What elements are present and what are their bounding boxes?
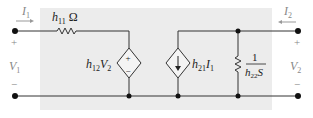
terminal-1-plus xyxy=(12,28,18,34)
resistor-h22-numerator: 1 xyxy=(252,51,258,63)
junction-node xyxy=(236,94,241,99)
junction-node xyxy=(176,94,181,99)
voltage-v2-label: V2 xyxy=(290,59,301,75)
source-plus: + xyxy=(126,53,131,63)
current-i2-label: I2 xyxy=(283,4,292,20)
port1-plus: + xyxy=(11,36,17,48)
port1-minus: − xyxy=(11,78,17,90)
voltage-v1-label: V1 xyxy=(9,59,20,75)
port2-plus: + xyxy=(294,36,300,48)
source-minus: − xyxy=(126,66,131,76)
circuit-diagram: + − I1 + V1 − h11 Ω h12V2 h21I1 1 h22S I… xyxy=(0,0,313,118)
current-i1-label: I1 xyxy=(21,4,30,20)
junction-node xyxy=(236,29,241,34)
terminal-2-plus xyxy=(295,28,301,34)
arrow-head xyxy=(30,19,34,23)
terminal-1-minus xyxy=(12,93,18,99)
resistor-h11-label: h11 Ω xyxy=(52,10,78,26)
arrow-head xyxy=(278,20,282,24)
junction-node xyxy=(127,94,132,99)
terminal-2-minus xyxy=(295,93,301,99)
port2-minus: − xyxy=(294,78,300,90)
